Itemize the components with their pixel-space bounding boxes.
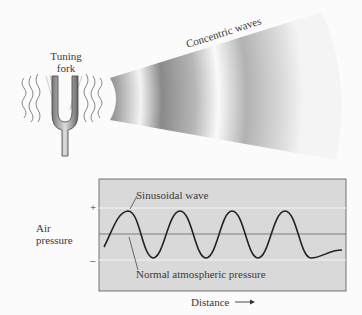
tuning-fork-label-line2: fork [44,62,88,74]
tuning-fork-label-line1: Tuning [44,50,88,62]
sinusoidal-wave-label: Sinusoidal wave [136,189,208,201]
x-axis-label: Distance [191,296,229,308]
minus-tick: – [90,254,96,266]
plus-tick: + [90,201,96,213]
y-axis-label-line2: pressure [36,234,73,246]
tuning-fork-label: Tuning fork [44,50,88,74]
vibration-lines-icon [22,74,102,122]
distance-arrow-icon [235,300,255,305]
y-axis-label: Air pressure [36,222,73,246]
y-axis-label-line1: Air [36,222,73,234]
atmospheric-pressure-label: Normal atmospheric pressure [136,268,266,280]
tuning-fork-icon [52,76,78,156]
